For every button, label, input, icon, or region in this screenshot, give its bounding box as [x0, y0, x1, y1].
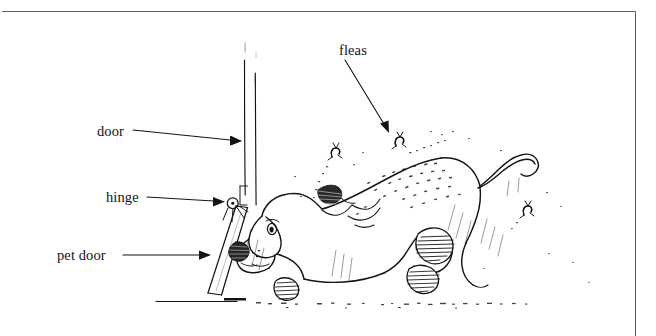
callout-arrow-pet-door [123, 250, 211, 259]
dog-shoulder-patch [318, 185, 343, 204]
label-hinge: hinge [106, 190, 139, 205]
floor-dust-dots [256, 302, 527, 309]
callout-arrow-hinge [147, 197, 225, 207]
callout-arrow-door [133, 130, 242, 146]
label-door: door [97, 124, 124, 139]
callout-arrow-fleas [345, 60, 389, 133]
figure-illustration: door hinge pet door fleas [0, 0, 656, 336]
flea-1 [328, 143, 342, 160]
flea-3 [520, 201, 534, 218]
dog-nose [229, 242, 249, 261]
pet-door-dog-drawing [0, 0, 656, 336]
flea-2-trail [409, 140, 446, 153]
label-fleas: fleas [339, 43, 367, 58]
door-panel [240, 43, 256, 205]
dog-body [237, 154, 539, 287]
dog-front-paw-hatched [274, 278, 300, 301]
dog-hind-paw-hatched [407, 265, 440, 293]
label-pet-door: pet door [57, 248, 106, 263]
dog-thigh-hatched [416, 228, 454, 264]
flea-2 [392, 132, 406, 149]
flea-3-trail [511, 222, 518, 229]
floor-line [156, 298, 246, 302]
